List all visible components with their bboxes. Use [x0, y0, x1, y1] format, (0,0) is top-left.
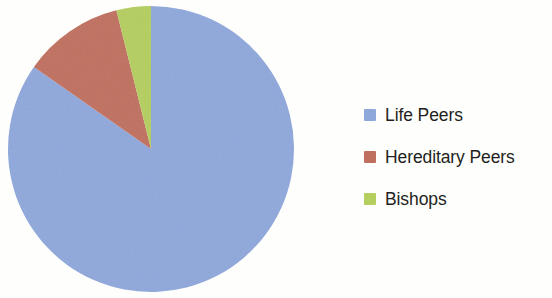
- legend-label-bishops: Bishops: [385, 189, 447, 209]
- pie-chart-figure: Life Peers Hereditary Peers Bishops: [0, 0, 552, 298]
- legend-swatch-life-peers: [364, 109, 376, 121]
- legend-item-hereditary-peers[interactable]: Hereditary Peers: [364, 136, 552, 178]
- pie-svg: [0, 0, 340, 298]
- legend-item-bishops[interactable]: Bishops: [364, 178, 552, 220]
- legend-label-hereditary-peers: Hereditary Peers: [385, 147, 515, 167]
- chart-legend: Life Peers Hereditary Peers Bishops: [364, 94, 552, 220]
- legend-label-life-peers: Life Peers: [385, 105, 463, 125]
- legend-swatch-bishops: [364, 193, 376, 205]
- legend-swatch-hereditary-peers: [364, 151, 376, 163]
- legend-item-life-peers[interactable]: Life Peers: [364, 94, 552, 136]
- pie-plot-area: [0, 0, 340, 298]
